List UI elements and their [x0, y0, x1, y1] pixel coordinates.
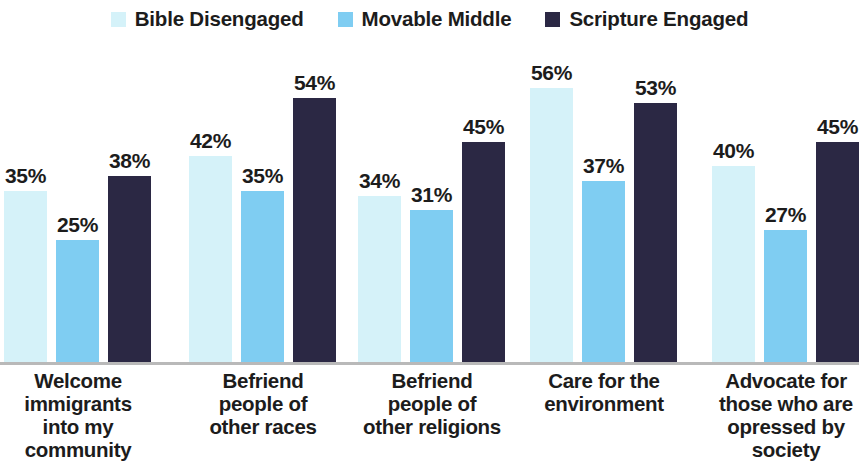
axis-baseline [0, 362, 859, 365]
category-label-0: Welcomeimmigrantsinto mycommunity [0, 370, 168, 462]
bar[interactable]: 31% [410, 210, 453, 362]
bar-value-label: 35% [242, 165, 283, 186]
bar[interactable]: 56% [530, 88, 573, 362]
category-label-1: Befriendpeople ofother races [173, 370, 353, 439]
category-label-line: Advocate for [696, 370, 859, 393]
category-label-line: other religions [342, 416, 522, 439]
bar-rect[interactable] [189, 156, 232, 362]
bar-value-label: 35% [5, 165, 46, 186]
category-label-line: Befriend [173, 370, 353, 393]
category-label-line: society [696, 439, 859, 462]
category-label-line: community [0, 439, 168, 462]
bar-value-label: 45% [817, 116, 858, 137]
bar-value-label: 25% [57, 214, 98, 235]
bar-rect[interactable] [108, 176, 151, 362]
bar-rect[interactable] [293, 98, 336, 362]
bar-value-label: 45% [463, 116, 504, 137]
bar-rect[interactable] [530, 88, 573, 362]
bar-rect[interactable] [764, 230, 807, 362]
bar[interactable]: 45% [462, 142, 505, 362]
bar-rect[interactable] [56, 240, 99, 362]
category-label-line: Befriend [342, 370, 522, 393]
category-label-line: people of [173, 393, 353, 416]
bar-value-label: 42% [190, 130, 231, 151]
bar-rect[interactable] [634, 103, 677, 362]
bar-rect[interactable] [582, 181, 625, 362]
bar[interactable]: 35% [241, 191, 284, 362]
bar-rect[interactable] [712, 166, 755, 362]
bar-rect[interactable] [241, 191, 284, 362]
bar[interactable]: 45% [816, 142, 859, 362]
category-label-line: opressed by [696, 416, 859, 439]
bar-value-label: 53% [635, 77, 676, 98]
bar-chart: Bible DisengagedMovable MiddleScripture … [0, 0, 859, 470]
category-label-3: Care for theenvironment [514, 370, 694, 416]
category-label-line: other races [173, 416, 353, 439]
bar-rect[interactable] [410, 210, 453, 362]
bar-rect[interactable] [4, 191, 47, 362]
bar-value-label: 27% [765, 204, 806, 225]
category-axis-labels: Welcomeimmigrantsinto mycommunityBefrien… [0, 370, 859, 470]
bar-value-label: 40% [713, 140, 754, 161]
category-label-line: environment [514, 393, 694, 416]
category-label-line: Care for the [514, 370, 694, 393]
bar[interactable]: 34% [358, 196, 401, 362]
bar-value-label: 38% [109, 150, 150, 171]
category-label-line: immigrants [0, 393, 168, 416]
bar-value-label: 54% [294, 72, 335, 93]
bar-rect[interactable] [816, 142, 859, 362]
category-label-4: Advocate forthose who areopressed bysoci… [696, 370, 859, 462]
bar[interactable]: 35% [4, 191, 47, 362]
category-label-line: people of [342, 393, 522, 416]
bar-value-label: 34% [359, 170, 400, 191]
bar-value-label: 37% [583, 155, 624, 176]
bar[interactable]: 42% [189, 156, 232, 362]
category-label-2: Befriendpeople ofother religions [342, 370, 522, 439]
bar[interactable]: 37% [582, 181, 625, 362]
bar[interactable]: 25% [56, 240, 99, 362]
bar-value-label: 31% [411, 184, 452, 205]
bar-rect[interactable] [358, 196, 401, 362]
bar-value-label: 56% [531, 62, 572, 83]
category-label-line: Welcome [0, 370, 168, 393]
bar[interactable]: 27% [764, 230, 807, 362]
bar[interactable]: 53% [634, 103, 677, 362]
category-label-line: those who are [696, 393, 859, 416]
bar-rect[interactable] [462, 142, 505, 362]
bar[interactable]: 38% [108, 176, 151, 362]
bar[interactable]: 54% [293, 98, 336, 362]
category-label-line: into my [0, 416, 168, 439]
plot-area: 35%25%38%42%35%54%34%31%45%56%37%53%40%2… [0, 0, 859, 367]
bar[interactable]: 40% [712, 166, 755, 362]
